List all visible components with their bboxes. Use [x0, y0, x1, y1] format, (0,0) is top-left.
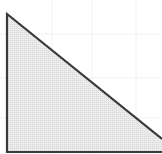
triangle-fill: [7, 14, 162, 152]
diagram-canvas: [0, 0, 162, 154]
triangle-diagram: [0, 0, 162, 154]
